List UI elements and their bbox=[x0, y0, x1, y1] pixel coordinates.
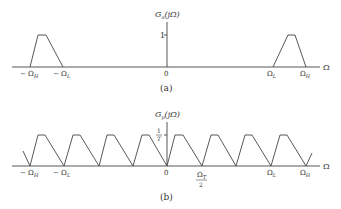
panel-b-ytick-den: T bbox=[157, 135, 162, 142]
panel-a-xaxis-label: Ω bbox=[323, 63, 330, 72]
panel-b-tick-neg-high: − ΩH bbox=[20, 169, 39, 178]
panel-a-labels: Ga(jΩ) 1 0 Ω − ΩH − ΩL ΩL ΩH (a) bbox=[20, 10, 330, 93]
panel-b-origin: 0 bbox=[164, 169, 168, 177]
panel-a-origin: 0 bbox=[164, 70, 168, 78]
panel-a-tick-pos-low: ΩL bbox=[267, 70, 277, 79]
panel-a bbox=[12, 22, 320, 67]
panel-a-tick-neg-high: − ΩH bbox=[20, 70, 39, 79]
panel-b-ytick-num: 1 bbox=[157, 127, 161, 134]
panel-b-tick-pos-low: ΩL bbox=[267, 169, 277, 178]
panel-b-periodic-bands bbox=[23, 135, 312, 166]
panel-a-tick-neg-low: − ΩL bbox=[53, 70, 71, 79]
panel-a-ylabel: Ga(jΩ) bbox=[155, 10, 180, 20]
panel-b-xaxis-label: Ω bbox=[323, 162, 330, 171]
panel-a-right-band bbox=[273, 35, 306, 67]
panel-b-tick-half-t-den: 2 bbox=[199, 181, 203, 188]
panel-b bbox=[12, 122, 320, 166]
panel-a-left-band bbox=[30, 35, 63, 67]
panel-a-ytick-label: 1 bbox=[160, 31, 165, 40]
panel-b-tick-half-t-num: ΩT bbox=[197, 171, 207, 180]
panel-b-ylabel: Gp(jΩ) bbox=[155, 110, 180, 121]
spectrum-diagram: Ga(jΩ) 1 0 Ω − ΩH − ΩL ΩL ΩH (a) Gp(jΩ) … bbox=[0, 0, 341, 209]
panel-a-tick-pos-high: ΩH bbox=[300, 70, 311, 79]
panel-b-caption: (b) bbox=[160, 192, 173, 202]
panel-b-tick-pos-high: ΩH bbox=[300, 169, 311, 178]
panel-b-tick-neg-low: − ΩL bbox=[53, 169, 71, 178]
panel-a-caption: (a) bbox=[160, 83, 172, 93]
